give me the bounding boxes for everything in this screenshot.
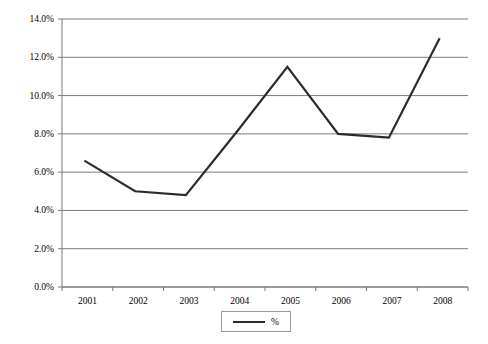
y-tick-label: 4.0% xyxy=(0,205,54,215)
x-tick-marks xyxy=(62,287,468,291)
y-tick-label: 2.0% xyxy=(0,244,54,254)
legend-entry-percent: % xyxy=(222,312,290,331)
axes xyxy=(62,19,468,287)
x-tick-label: 2004 xyxy=(214,296,265,306)
legend-line-swatch xyxy=(233,321,265,323)
y-tick-label: 6.0% xyxy=(0,167,54,177)
x-tick-label: 2003 xyxy=(164,296,215,306)
x-tick-label: 2006 xyxy=(316,296,367,306)
x-tick-label: 2008 xyxy=(417,296,468,306)
y-tick-label: 14.0% xyxy=(0,14,54,24)
gridlines xyxy=(62,19,468,287)
x-tick-label: 2002 xyxy=(113,296,164,306)
data-series-group xyxy=(84,38,439,195)
legend-label: % xyxy=(271,317,279,327)
y-tick-label: 12.0% xyxy=(0,52,54,62)
chart-legend: % xyxy=(221,311,291,332)
x-tick-label: 2007 xyxy=(367,296,418,306)
y-tick-label: 0.0% xyxy=(0,282,54,292)
y-tick-label: 10.0% xyxy=(0,91,54,101)
y-tick-marks xyxy=(58,19,62,287)
x-tick-label: 2005 xyxy=(265,296,316,306)
plot-area xyxy=(0,0,488,344)
line-chart: 0.0%2.0%4.0%6.0%8.0%10.0%12.0%14.0% 2001… xyxy=(0,0,488,344)
x-tick-label: 2001 xyxy=(62,296,113,306)
series-line-% xyxy=(84,38,439,195)
y-tick-label: 8.0% xyxy=(0,129,54,139)
